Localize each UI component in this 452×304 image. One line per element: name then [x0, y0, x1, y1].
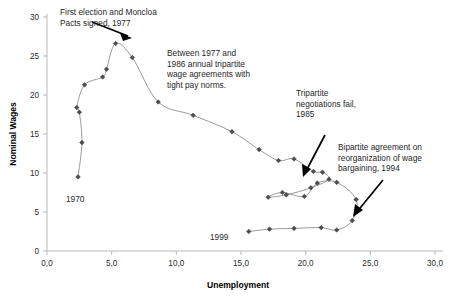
bipartite-agreement-annotation: Bipartite agreement on reorganization of… [338, 142, 422, 174]
data-point-marker [302, 194, 307, 199]
x-tick-label: 10,0 [168, 259, 184, 268]
label-1970: 1970 [66, 194, 84, 204]
y-axis: 051015202530 [30, 13, 47, 256]
tripartite-agreements-annotation: Between 1977 and 1986 annual tripartite … [167, 48, 250, 90]
data-point-marker [311, 169, 316, 174]
data-point-marker [257, 147, 262, 152]
x-axis-title: Unemployment [207, 280, 269, 290]
x-axis: 0,05,010,015,020,025,030,0 [41, 251, 443, 268]
y-tick-label: 20 [30, 91, 40, 100]
data-point-marker [320, 170, 325, 175]
data-point-marker [267, 227, 272, 232]
x-tick-label: 0,0 [41, 259, 53, 268]
x-tick-label: 15,0 [233, 259, 249, 268]
data-point-marker [280, 190, 285, 195]
data-point-marker [292, 226, 297, 231]
data-point-marker [309, 186, 314, 191]
y-tick-label: 0 [34, 247, 39, 256]
moncloa-pacts-annotation: First election and Moncloa Pacts signed,… [60, 7, 157, 28]
data-point-marker [76, 175, 81, 180]
y-axis-title: Nominal Wages [8, 102, 18, 166]
label-1999: 1999 [210, 232, 228, 242]
x-tick-label: 20,0 [298, 259, 314, 268]
data-point-marker [334, 180, 339, 185]
data-point-marker [80, 140, 85, 145]
y-tick-label: 10 [30, 169, 40, 178]
y-tick-label: 30 [30, 13, 40, 22]
x-tick-label: 5,0 [106, 259, 118, 268]
data-point-marker [191, 113, 196, 118]
y-tick-label: 15 [30, 130, 40, 139]
tripartite-fail-annotation: Tripartite negotiations fail, 1985 [296, 88, 356, 120]
data-point-marker [246, 229, 251, 234]
data-point-marker [276, 158, 281, 163]
data-point-marker [104, 67, 109, 72]
data-point-marker [334, 228, 339, 233]
data-point-marker [292, 157, 297, 162]
data-point-marker [230, 129, 235, 134]
y-tick-label: 25 [30, 52, 40, 61]
x-tick-label: 30,0 [427, 259, 443, 268]
y-tick-label: 5 [34, 208, 39, 217]
x-tick-label: 25,0 [362, 259, 378, 268]
data-point-marker [77, 110, 82, 115]
chart-container: 051015202530 0,05,010,015,020,025,030,0 … [0, 0, 452, 304]
data-point-marker [319, 225, 324, 230]
data-point-marker [354, 197, 359, 202]
